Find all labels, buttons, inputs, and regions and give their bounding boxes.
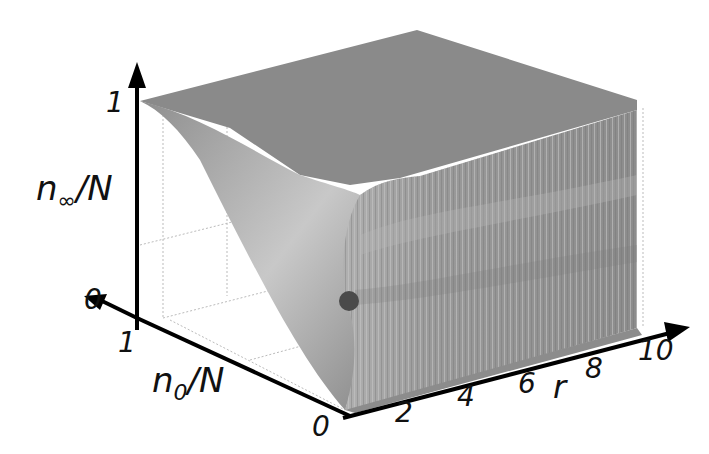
surface-plot: 1 0 1 0 2 4 6 8 10 n∞/N n0/N r [0,0,709,454]
y-axis-back [100,300,137,318]
x-tick-6: 6 [518,367,536,400]
x-axis-label: r [553,368,568,406]
z-tick-0: 0 [84,283,102,316]
z-axis-label: n∞/N [36,168,113,213]
z-tick-1: 1 [106,86,124,119]
x-tick-4: 4 [457,380,475,413]
x-tick-8: 8 [585,352,603,385]
z-axis-arrow-icon [128,62,146,88]
x-tick-10: 10 [638,334,674,367]
y-axis-label: n0/N [152,360,224,405]
marked-point [339,291,359,311]
y-tick-0: 0 [312,410,330,443]
y-tick-1: 1 [118,326,136,359]
x-tick-2: 2 [395,396,413,429]
